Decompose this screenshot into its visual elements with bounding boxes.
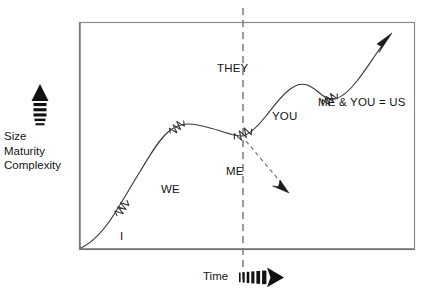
i-label: I (120, 230, 123, 242)
y-axis-arrow-icon (32, 84, 49, 125)
x-axis-label: Time (203, 270, 228, 282)
y-axis-label-line-3: Complexity (4, 158, 76, 173)
me-you-us-label: ME & YOU = US (318, 96, 406, 108)
plot-frame (80, 23, 415, 250)
we-label: WE (161, 183, 180, 195)
y-axis-label-line-1: Size (4, 129, 76, 144)
me-label: ME (226, 165, 244, 177)
they-label: THEY (217, 62, 248, 74)
y-axis-label-block: Size Maturity Complexity (4, 129, 76, 173)
you-label: YOU (272, 110, 298, 122)
x-axis-arrow-icon (239, 268, 284, 288)
y-axis-label-line-2: Maturity (4, 144, 76, 159)
diagram-canvas: Size Maturity Complexity THEY I WE ME YO… (0, 0, 430, 295)
